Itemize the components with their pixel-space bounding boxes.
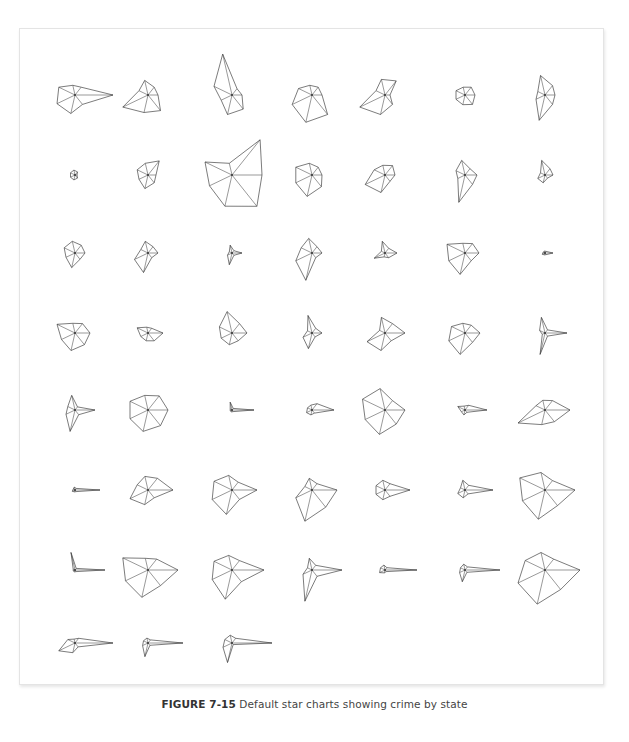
star-glyph — [518, 553, 580, 605]
figure-caption-text: Default star charts showing crime by sta… — [239, 698, 467, 710]
star-glyph — [205, 140, 262, 207]
star-glyph — [130, 395, 168, 431]
star-glyph — [123, 80, 161, 112]
star-glyph — [71, 553, 105, 572]
figure-caption: FIGURE 7-15 Default star charts showing … — [0, 698, 629, 710]
star-glyph — [59, 638, 113, 652]
star-glyph — [303, 316, 322, 349]
figure-label: FIGURE 7-15 — [161, 698, 236, 710]
star-glyph — [57, 85, 113, 113]
star-glyph — [296, 163, 322, 196]
star-glyph — [374, 241, 397, 258]
star-glyph — [538, 160, 553, 182]
star-glyph — [542, 251, 553, 255]
star-glyph — [520, 473, 575, 520]
star-glyph — [223, 635, 272, 662]
star-glyph — [137, 327, 163, 341]
star-glyph — [360, 79, 396, 114]
star-glyph — [123, 558, 178, 597]
star-glyph — [214, 54, 243, 114]
star-glyph — [303, 558, 342, 601]
star-glyph — [212, 555, 264, 599]
star-glyph — [536, 76, 555, 121]
star-glyph — [72, 487, 100, 492]
star-glyph — [367, 317, 405, 350]
star-glyph — [64, 241, 85, 267]
star-glyph — [307, 404, 334, 415]
star-glyph — [458, 405, 487, 415]
star-glyph — [540, 317, 567, 354]
star-glyph — [458, 480, 493, 498]
star-glyph — [363, 389, 406, 435]
star-glyph — [219, 312, 247, 345]
star-glyph — [456, 160, 477, 202]
star-glyph — [456, 87, 475, 105]
star-glyph — [212, 475, 257, 514]
star-glyph — [228, 245, 243, 265]
star-glyph — [376, 480, 410, 499]
star-glyph — [66, 395, 95, 431]
star-chart-grid — [0, 0, 629, 742]
star-glyph — [137, 161, 159, 189]
star-glyph — [365, 165, 395, 192]
star-glyph — [230, 402, 254, 412]
star-glyph — [380, 565, 417, 573]
star-glyph — [57, 323, 90, 350]
star-glyph — [296, 478, 337, 521]
star-glyph — [71, 170, 78, 180]
star-glyph — [518, 400, 570, 424]
star-glyph — [460, 564, 500, 582]
star-glyph — [296, 238, 322, 280]
star-glyph — [135, 241, 159, 272]
star-glyph — [447, 243, 479, 274]
star-glyph — [292, 85, 327, 122]
star-glyph — [449, 323, 480, 354]
star-glyph — [143, 638, 183, 657]
star-glyph — [130, 476, 173, 504]
